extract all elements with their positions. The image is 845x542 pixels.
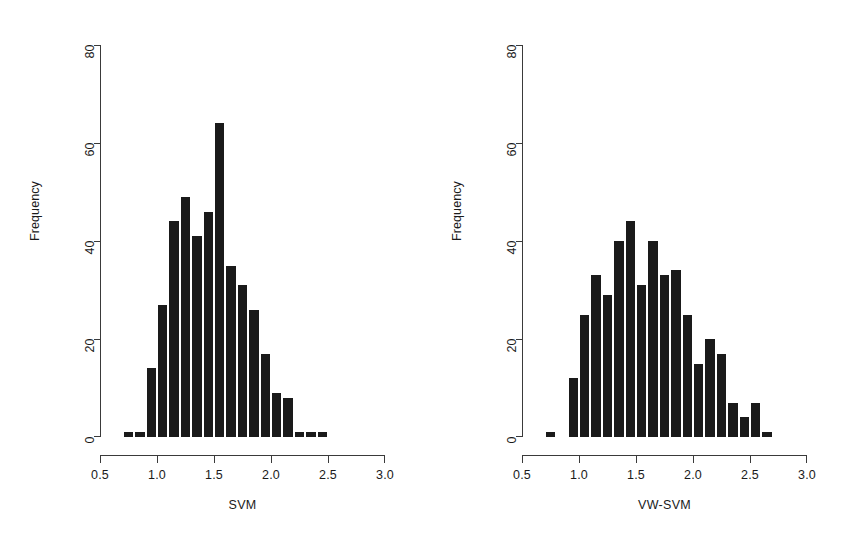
- histogram-bar: [761, 432, 772, 437]
- y-axis-tick-label: 0: [84, 436, 97, 443]
- histogram-bar: [203, 212, 214, 437]
- histogram-bar: [168, 221, 179, 437]
- x-axis-tick: [636, 456, 637, 463]
- x-axis-tick: [271, 456, 272, 463]
- y-axis-tick-label: 60: [84, 142, 97, 156]
- x-axis-cap-right: [806, 456, 807, 463]
- x-axis-tick-label: 3.0: [798, 468, 816, 482]
- histogram-bar: [682, 315, 693, 438]
- histogram-bar: [602, 295, 613, 437]
- y-axis-tick-label: 80: [84, 44, 97, 58]
- x-axis-tick-label: 2.5: [319, 468, 337, 482]
- histogram-bar: [693, 364, 704, 438]
- y-axis-title-right: Frequency: [450, 181, 464, 241]
- histogram-bar: [248, 310, 259, 437]
- histogram-bar: [750, 403, 761, 437]
- x-axis-tick-label: 2.5: [741, 468, 759, 482]
- histogram-bar: [704, 339, 715, 437]
- x-axis-tick-label: 3.0: [376, 468, 394, 482]
- bars-right: [522, 45, 807, 437]
- x-axis-title-right: VW-SVM: [522, 498, 807, 512]
- x-axis-tick-label: 2.0: [684, 468, 702, 482]
- y-axis-tick-label: 20: [506, 338, 519, 352]
- panel-vw-svm: 020406080 Frequency 0.51.01.52.02.53.0 V…: [422, 0, 845, 542]
- x-axis-tick: [214, 456, 215, 463]
- x-axis-tick: [328, 456, 329, 463]
- histogram-bar: [294, 432, 305, 437]
- histogram-figure: 020406080 Frequency 0.51.01.52.02.53.0 S…: [0, 0, 845, 542]
- x-axis-cap-right: [384, 456, 385, 463]
- histogram-bar: [625, 221, 636, 437]
- x-axis-tick-label: 0.5: [91, 468, 109, 482]
- x-axis-tick-label: 1.5: [205, 468, 223, 482]
- histogram-bar: [237, 285, 248, 437]
- y-axis-title-left: Frequency: [28, 181, 42, 241]
- bars-left: [100, 45, 385, 437]
- histogram-bar: [716, 354, 727, 437]
- histogram-bar: [157, 305, 168, 437]
- x-axis-right: 0.51.01.52.02.53.0: [522, 455, 807, 463]
- histogram-bar: [123, 432, 134, 437]
- histogram-bar: [191, 236, 202, 437]
- histogram-bar: [146, 368, 157, 437]
- panel-svm: 020406080 Frequency 0.51.01.52.02.53.0 S…: [0, 0, 422, 542]
- histogram-bar: [282, 398, 293, 437]
- histogram-bar: [225, 266, 236, 438]
- x-axis-tick: [157, 456, 158, 463]
- histogram-bar: [214, 123, 225, 437]
- y-axis-tick-label: 60: [506, 142, 519, 156]
- x-axis-left: 0.51.01.52.02.53.0: [100, 455, 385, 463]
- x-axis-tick-label: 1.0: [570, 468, 588, 482]
- histogram-bar: [727, 403, 738, 437]
- histogram-bar: [260, 354, 271, 437]
- y-axis-tick-label: 20: [84, 338, 97, 352]
- histogram-bar: [305, 432, 316, 437]
- histogram-bar: [134, 432, 145, 437]
- x-axis-tick: [579, 456, 580, 463]
- x-axis-tick: [750, 456, 751, 463]
- histogram-bar: [636, 285, 647, 437]
- histogram-bar: [271, 393, 282, 437]
- x-axis-cap-left: [100, 456, 101, 463]
- x-axis-title-left: SVM: [100, 498, 385, 512]
- y-axis-tick-label: 40: [506, 240, 519, 254]
- plot-area-left: [100, 45, 385, 437]
- y-axis-tick-label: 0: [506, 436, 519, 443]
- x-axis-tick: [693, 456, 694, 463]
- histogram-bar: [579, 315, 590, 438]
- histogram-bar: [568, 378, 579, 437]
- plot-area-right: [522, 45, 807, 437]
- histogram-bar: [180, 197, 191, 437]
- histogram-bar: [590, 275, 601, 437]
- x-axis-cap-left: [522, 456, 523, 463]
- x-axis-tick-label: 2.0: [262, 468, 280, 482]
- x-axis-tick-label: 0.5: [513, 468, 531, 482]
- x-axis-tick-label: 1.5: [627, 468, 645, 482]
- histogram-bar: [659, 275, 670, 437]
- histogram-bar: [739, 417, 750, 437]
- histogram-bar: [613, 241, 624, 437]
- histogram-bar: [545, 432, 556, 437]
- y-axis-tick-label: 80: [506, 44, 519, 58]
- histogram-bar: [670, 270, 681, 437]
- histogram-bar: [647, 241, 658, 437]
- x-axis-tick-label: 1.0: [148, 468, 166, 482]
- histogram-bar: [317, 432, 328, 437]
- y-axis-tick-label: 40: [84, 240, 97, 254]
